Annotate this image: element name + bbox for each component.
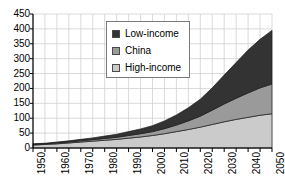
stacked-area-chart: 050100150200250300350400450 195019601970…: [0, 0, 285, 189]
chart-legend: Low-income China High-income: [106, 21, 190, 78]
legend-label-high-income: High-income: [125, 63, 181, 73]
legend-swatch-high-income: [112, 64, 120, 72]
x-tick-label: 2020: [204, 152, 214, 174]
legend-item-high-income: High-income: [112, 60, 189, 76]
legend-label-china: China: [125, 46, 151, 56]
legend-swatch-low-income: [112, 30, 120, 38]
x-tick-label: 1950: [37, 152, 47, 174]
x-tick-label: 1960: [61, 152, 71, 174]
x-axis-tick-labels: 1950196019701980199020002010202020302040…: [33, 150, 272, 189]
x-tick-label: 2030: [228, 152, 238, 174]
x-tick-label: 1990: [133, 152, 143, 174]
x-tick-label: 2050: [276, 152, 285, 174]
x-tick-label: 2040: [252, 152, 262, 174]
legend-label-low-income: Low-income: [125, 29, 179, 39]
x-tick-label: 2000: [157, 152, 167, 174]
x-tick-label: 2010: [180, 152, 190, 174]
x-tick-label: 1970: [85, 152, 95, 174]
legend-item-low-income: Low-income: [112, 26, 189, 42]
x-tick-label: 1980: [109, 152, 119, 174]
legend-item-china: China: [112, 43, 189, 59]
legend-swatch-china: [112, 47, 120, 55]
